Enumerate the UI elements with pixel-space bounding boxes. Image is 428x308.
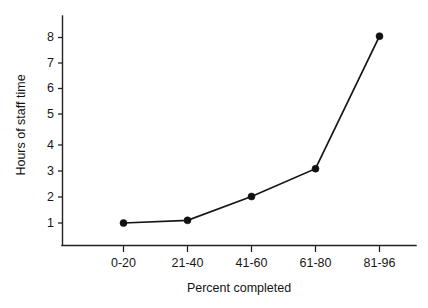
data-point-81-96 [376,33,383,40]
y-tick-label-8: 8 [47,30,54,44]
y-tick-label-5: 5 [47,107,54,121]
y-tick-label-3: 3 [47,164,54,178]
data-series-markers [120,33,383,227]
x-axis-title: Percent completed [187,281,291,295]
data-point-61-80 [312,165,319,172]
y-axis-title: Hours of staff time [14,74,28,175]
x-tick-label-4: 81-96 [364,256,396,270]
y-tick-label-1: 1 [47,216,54,230]
y-axis-tick-labels: 8 7 6 5 4 3 2 1 [47,30,54,230]
x-tick-label-0: 0-20 [111,256,136,270]
data-point-0-20 [120,220,127,227]
x-tick-label-2: 41-60 [236,256,268,270]
x-axis-ticks [124,246,380,253]
data-point-41-60 [248,193,255,200]
data-point-21-40 [184,217,191,224]
chart-figure: 8 7 6 5 4 3 2 1 0-20 21-40 41-60 61-80 8… [0,0,428,308]
y-tick-label-2: 2 [47,190,54,204]
x-tick-label-1: 21-40 [172,256,204,270]
y-tick-label-6: 6 [47,81,54,95]
x-axis-tick-labels: 0-20 21-40 41-60 61-80 81-96 [111,256,396,270]
y-tick-label-7: 7 [47,56,54,70]
line-chart-svg: 8 7 6 5 4 3 2 1 0-20 21-40 41-60 61-80 8… [0,0,428,308]
x-tick-label-3: 61-80 [300,256,332,270]
y-tick-label-4: 4 [47,138,54,152]
